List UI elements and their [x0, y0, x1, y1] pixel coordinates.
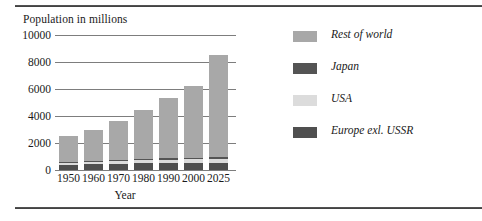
bar-segment	[84, 164, 103, 170]
bar-segment	[184, 163, 203, 170]
legend-item: Europe exl. USSR	[293, 124, 473, 156]
bar-segment	[84, 130, 103, 161]
bar-1950	[59, 136, 78, 170]
legend-swatch	[293, 31, 317, 42]
y-axis-title: Population in millions	[23, 13, 127, 25]
legend-item: Japan	[293, 60, 473, 92]
bar-segment	[159, 98, 178, 158]
legend-swatch	[293, 63, 317, 74]
gridline: 0	[55, 170, 236, 171]
x-axis-tick-label: 1980	[132, 172, 155, 184]
x-axis-tick-label: 1990	[157, 172, 180, 184]
bar-segment	[134, 163, 153, 170]
bar-1990	[159, 98, 178, 170]
chart-legend: Rest of worldJapanUSAEurope exl. USSR	[293, 28, 473, 156]
legend-label: Rest of world	[331, 28, 392, 40]
bar-segment	[134, 110, 153, 159]
bar-segment	[109, 121, 128, 159]
bar-1960	[84, 130, 103, 170]
bar-1980	[134, 110, 153, 170]
y-axis-tick-label: 4000	[28, 110, 51, 122]
x-axis-tick-label: 2000	[182, 172, 205, 184]
bar-segment	[59, 136, 78, 161]
x-axis-tick-label: 1950	[57, 172, 80, 184]
x-axis-title: Year	[0, 189, 250, 201]
x-axis-tick-label: 1960	[82, 172, 105, 184]
stacked-bar-chart: Population in millions 02000400060008000…	[0, 0, 250, 200]
legend-label: USA	[331, 92, 352, 104]
bar-segment	[159, 163, 178, 170]
chart-figure: Population in millions 02000400060008000…	[0, 0, 482, 221]
bar-segment	[184, 86, 203, 157]
y-axis-tick-label: 2000	[28, 137, 51, 149]
x-axis-tick-labels: 1950196019701980199020002025	[55, 172, 240, 188]
bar-segment	[59, 165, 78, 170]
legend-swatch	[293, 127, 317, 138]
legend-item: Rest of world	[293, 28, 473, 60]
legend-label: Japan	[331, 60, 359, 72]
y-axis-tick-label: 6000	[28, 83, 51, 95]
legend-item: USA	[293, 92, 473, 124]
bar-segment	[209, 163, 228, 170]
y-axis-tick-label: 0	[45, 164, 51, 176]
y-axis-tick-label: 10000	[22, 29, 51, 41]
bar-segment	[209, 55, 228, 157]
x-axis-tick-label: 1970	[107, 172, 130, 184]
bar-group	[55, 35, 230, 170]
bar-2025	[209, 55, 228, 170]
plot-area: 0200040006000800010000	[55, 35, 230, 170]
bar-segment	[109, 164, 128, 170]
bottom-divider-rule	[15, 207, 482, 209]
bar-1970	[109, 121, 128, 170]
bar-2000	[184, 86, 203, 170]
y-axis-tick-label: 8000	[28, 56, 51, 68]
legend-swatch	[293, 95, 317, 106]
legend-label: Europe exl. USSR	[331, 124, 413, 136]
x-axis-tick-label: 2025	[207, 172, 230, 184]
